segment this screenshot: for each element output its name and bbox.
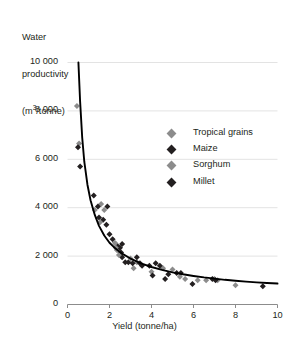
x-tick-label: 10	[266, 310, 290, 320]
y-tick-label: 10 000	[14, 56, 58, 66]
y-tick-label: 4 000	[14, 201, 58, 211]
legend-item-label: Sorghum	[193, 158, 230, 171]
legend-item-label: Millet	[193, 175, 214, 188]
data-point-marker	[74, 103, 80, 109]
data-point-marker	[131, 265, 137, 271]
legend-item-label: Tropical grains	[193, 126, 253, 139]
data-point-marker	[91, 193, 97, 199]
chart-legend: Tropical grainsMaizeSorghumMillet	[168, 126, 288, 191]
legend-item: Tropical grains	[168, 126, 288, 142]
data-point-marker	[233, 282, 239, 288]
legend-item: Millet	[168, 175, 288, 191]
data-point-marker	[195, 277, 201, 283]
x-axis-title: Yield (tonne/ha)	[0, 321, 289, 331]
x-tick-label: 0	[56, 310, 80, 320]
legend-diamond-icon	[167, 177, 177, 187]
legend-item: Maize	[168, 142, 288, 158]
x-tick-label: 2	[98, 310, 122, 320]
data-point-marker	[77, 164, 83, 170]
chart-figure: Water productivity (m3/tonne) 02 0004 00…	[0, 0, 289, 345]
x-tick-label: 4	[140, 310, 164, 320]
y-tick-label: 8 000	[14, 104, 58, 114]
y-tick-label: 2 000	[14, 250, 58, 260]
y-tick-label: 0	[14, 298, 58, 308]
y-tick-label: 6 000	[14, 153, 58, 163]
legend-diamond-icon	[167, 129, 177, 139]
data-point-marker	[103, 222, 109, 228]
data-point-marker	[122, 259, 128, 265]
data-point-marker	[182, 276, 188, 282]
legend-item: Sorghum	[168, 158, 288, 174]
data-point-marker	[162, 276, 168, 282]
x-tick-label: 6	[182, 310, 206, 320]
legend-diamond-icon	[167, 145, 177, 155]
data-point-marker	[260, 283, 266, 289]
data-point-marker	[189, 281, 195, 287]
legend-diamond-icon	[167, 161, 177, 171]
legend-item-label: Maize	[193, 142, 218, 155]
x-tick-label: 8	[224, 310, 248, 320]
data-point-marker	[107, 231, 113, 237]
